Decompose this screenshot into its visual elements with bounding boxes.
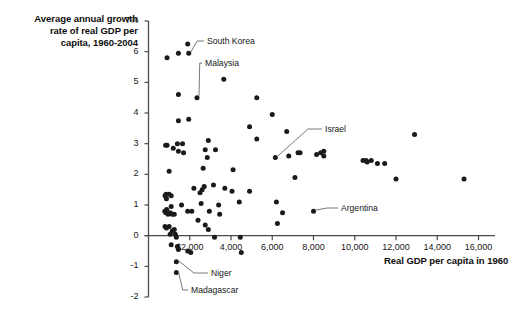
data-point bbox=[165, 55, 170, 60]
data-point bbox=[176, 118, 181, 123]
data-point bbox=[169, 204, 174, 209]
data-point bbox=[191, 186, 196, 191]
data-point bbox=[206, 227, 211, 232]
data-point bbox=[171, 146, 176, 151]
data-point bbox=[221, 77, 226, 82]
data-point bbox=[284, 129, 289, 134]
data-point bbox=[292, 175, 297, 180]
data-point bbox=[254, 137, 259, 142]
data-point bbox=[203, 222, 208, 227]
data-point bbox=[189, 209, 194, 214]
x-tick-label: 12,000 bbox=[373, 242, 419, 252]
data-point bbox=[168, 232, 173, 237]
data-point bbox=[270, 112, 275, 117]
annotation-label-israel: Israel bbox=[325, 124, 346, 134]
data-point bbox=[274, 199, 279, 204]
y-tick-label: -1 bbox=[117, 260, 139, 270]
data-point bbox=[311, 209, 316, 214]
data-point bbox=[286, 153, 291, 158]
data-point bbox=[321, 149, 326, 154]
x-axis-title: Real GDP per capita in 1960 bbox=[384, 255, 508, 266]
data-point bbox=[275, 221, 280, 226]
y-tick-label: 4 bbox=[117, 107, 139, 117]
data-point bbox=[254, 95, 259, 100]
data-point bbox=[169, 193, 174, 198]
data-point bbox=[199, 201, 204, 206]
data-point bbox=[321, 153, 326, 158]
x-tick-label: 14,000 bbox=[414, 242, 460, 252]
data-point bbox=[216, 203, 221, 208]
data-point bbox=[176, 51, 181, 56]
annotation-label-south-korea: South Korea bbox=[207, 36, 255, 46]
data-point bbox=[186, 117, 191, 122]
scatter-chart: Average annual growth rate of real GDP p… bbox=[0, 0, 524, 316]
data-point bbox=[205, 155, 210, 160]
data-point bbox=[198, 190, 203, 195]
data-point bbox=[172, 212, 177, 217]
data-point bbox=[375, 161, 380, 166]
data-point bbox=[213, 147, 218, 152]
annotation-label-argentina: Argentina bbox=[341, 203, 378, 213]
data-point bbox=[176, 149, 181, 154]
chart-canvas bbox=[0, 0, 524, 316]
annotation-leader-line bbox=[191, 41, 204, 52]
annotation-label-malaysia: Malaysia bbox=[205, 58, 239, 68]
data-point bbox=[207, 209, 212, 214]
data-point bbox=[280, 210, 285, 215]
y-tick-label: -2 bbox=[117, 291, 139, 301]
data-point bbox=[412, 132, 417, 137]
data-point bbox=[273, 155, 278, 160]
data-point bbox=[167, 169, 172, 174]
data-point bbox=[247, 124, 252, 129]
data-point bbox=[237, 199, 242, 204]
data-point bbox=[175, 141, 180, 146]
data-point bbox=[238, 235, 243, 240]
y-tick-label: 1 bbox=[117, 199, 139, 209]
data-point bbox=[212, 235, 217, 240]
y-tick-label: 0 bbox=[117, 230, 139, 240]
data-point bbox=[174, 270, 179, 275]
data-point bbox=[217, 212, 222, 217]
data-point bbox=[186, 51, 191, 56]
data-point bbox=[185, 42, 190, 47]
data-point bbox=[165, 143, 170, 148]
x-tick-label: 10,000 bbox=[332, 242, 378, 252]
data-point bbox=[206, 138, 211, 143]
data-point bbox=[176, 92, 181, 97]
annotation-leader-line bbox=[316, 208, 339, 210]
data-point bbox=[247, 189, 252, 194]
data-point bbox=[382, 161, 387, 166]
y-tick-label: 3 bbox=[117, 138, 139, 148]
x-tick-label: 6,000 bbox=[249, 242, 295, 252]
data-point bbox=[230, 189, 235, 194]
data-point bbox=[181, 150, 186, 155]
data-point bbox=[180, 141, 185, 146]
data-point bbox=[203, 147, 208, 152]
annotation-leader-line bbox=[199, 63, 202, 97]
data-point bbox=[196, 218, 201, 223]
data-point bbox=[172, 227, 177, 232]
annotation-label-madagascar: Madagascar bbox=[191, 285, 238, 295]
data-point bbox=[174, 235, 179, 240]
x-tick-label: 16,000 bbox=[456, 242, 502, 252]
x-tick-label: 8,000 bbox=[291, 242, 337, 252]
annotation-leader-line bbox=[178, 271, 188, 290]
annotation-label-niger: Niger bbox=[211, 268, 232, 278]
x-tick-label: $2,000 bbox=[167, 242, 213, 252]
y-tick-label: 7% bbox=[117, 15, 139, 25]
data-point bbox=[179, 203, 184, 208]
data-point bbox=[231, 167, 236, 172]
data-point bbox=[394, 176, 399, 181]
data-point bbox=[202, 184, 207, 189]
data-point bbox=[167, 224, 172, 229]
data-point bbox=[164, 196, 169, 201]
y-tick-label: 2 bbox=[117, 168, 139, 178]
data-point bbox=[222, 186, 227, 191]
annotation-leader-line bbox=[178, 261, 208, 273]
y-tick-label: 5 bbox=[117, 76, 139, 86]
data-point bbox=[174, 259, 179, 264]
data-point bbox=[298, 150, 303, 155]
data-point bbox=[369, 158, 374, 163]
data-point bbox=[201, 166, 206, 171]
data-point bbox=[462, 176, 467, 181]
